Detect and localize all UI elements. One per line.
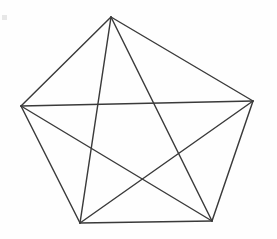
k5-graph-svg <box>0 0 277 239</box>
graph-edge-a-d <box>80 17 111 223</box>
diagram-canvas <box>0 0 277 239</box>
graph-edge-e-a <box>21 17 111 106</box>
graph-edge-b-d <box>80 101 253 223</box>
graph-edge-c-d <box>80 221 212 223</box>
graph-edge-b-e <box>21 101 253 106</box>
graph-edge-b-c <box>212 101 253 221</box>
edge-layer <box>21 17 253 223</box>
scan-speck-artifact <box>2 15 7 20</box>
scan-artifact-layer <box>2 15 7 20</box>
